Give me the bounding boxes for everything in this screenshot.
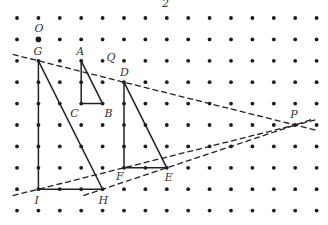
grid-dot: [101, 59, 105, 63]
grid-dot: [272, 209, 276, 213]
grid-dot: [15, 145, 19, 149]
grid-dot: [186, 166, 190, 170]
label-E: E: [164, 171, 173, 184]
grid-dot: [101, 38, 105, 42]
grid-dot: [315, 209, 319, 213]
grid-dot: [165, 80, 169, 84]
label-Q: Q: [107, 51, 116, 64]
grid-dot: [58, 59, 62, 63]
grid-dot: [186, 59, 190, 63]
title-fragment: 2: [161, 0, 169, 10]
grid-dot: [293, 209, 297, 213]
grid-dot: [293, 102, 297, 106]
grid-dot: [79, 209, 83, 213]
grid-dot: [251, 80, 255, 84]
grid-dot: [208, 123, 212, 127]
grid-dot: [229, 16, 233, 20]
grid-dot: [315, 38, 319, 42]
triangle-GHI: [38, 61, 102, 189]
grid-dot: [101, 145, 105, 149]
grid-dot: [15, 59, 19, 63]
grid-dot: [101, 166, 105, 170]
grid-dot: [208, 166, 212, 170]
point-O-dot: [36, 37, 42, 43]
grid-dot: [272, 123, 276, 127]
grid-dot: [15, 38, 19, 42]
grid-dot: [186, 16, 190, 20]
grid-dot: [165, 209, 169, 213]
grid-dot: [79, 16, 83, 20]
label-A: A: [75, 45, 84, 58]
grid-dot: [272, 102, 276, 106]
grid-dot: [229, 102, 233, 106]
grid-dot: [272, 80, 276, 84]
grid-dot: [101, 123, 105, 127]
grid-dot: [58, 16, 62, 20]
grid-dot: [186, 145, 190, 149]
grid-dot: [315, 145, 319, 149]
grid-dot: [144, 187, 148, 191]
line-GDP: [13, 54, 319, 130]
grid-dot: [293, 38, 297, 42]
grid-dot: [186, 80, 190, 84]
grid-dot: [101, 209, 105, 213]
grid-dot: [58, 166, 62, 170]
grid-dot: [186, 38, 190, 42]
grid-dot: [229, 80, 233, 84]
grid-dot: [186, 209, 190, 213]
grid-dot: [251, 38, 255, 42]
grid-dot: [251, 166, 255, 170]
grid-dot: [165, 145, 169, 149]
grid-dot: [101, 16, 105, 20]
label-G: G: [33, 45, 42, 58]
grid-dot: [165, 123, 169, 127]
label-H: H: [98, 194, 109, 207]
grid-dot: [15, 16, 19, 20]
grid-dot: [251, 145, 255, 149]
grid-dot: [229, 123, 233, 127]
grid-dot: [101, 80, 105, 84]
grid-dot: [293, 16, 297, 20]
line-IFP: [13, 119, 319, 195]
grid-dot: [293, 187, 297, 191]
grid-dot: [165, 16, 169, 20]
grid-dot: [165, 102, 169, 106]
grid-dot: [122, 38, 126, 42]
grid-dot: [315, 59, 319, 63]
grid-dot: [58, 145, 62, 149]
triangle-DEF: [124, 82, 167, 168]
grid-dot: [229, 59, 233, 63]
grid-dot: [144, 38, 148, 42]
grid-dot: [122, 16, 126, 20]
grid-dot: [58, 209, 62, 213]
grid-dot: [186, 123, 190, 127]
grid-dot: [208, 38, 212, 42]
grid-dot: [122, 209, 126, 213]
grid-dot: [293, 59, 297, 63]
grid-dot: [229, 166, 233, 170]
grid-dot: [37, 16, 41, 20]
grid-dot: [293, 80, 297, 84]
grid-dot: [315, 123, 319, 127]
grid-dot: [272, 16, 276, 20]
grid-dot: [15, 187, 19, 191]
grid-dot: [144, 59, 148, 63]
grid-dot: [251, 187, 255, 191]
line-HEP: [83, 119, 312, 195]
grid-dot: [293, 145, 297, 149]
grid-dot: [37, 209, 41, 213]
grid-dot: [251, 16, 255, 20]
grid-dot: [315, 187, 319, 191]
grid-dot: [79, 38, 83, 42]
grid-dot: [15, 209, 19, 213]
grid-dot: [272, 145, 276, 149]
grid-dot: [122, 59, 126, 63]
grid-dot: [251, 209, 255, 213]
label-P: P: [289, 108, 298, 121]
triangle-ABC: [81, 61, 102, 104]
grid-dot: [208, 59, 212, 63]
label-D: D: [119, 66, 129, 79]
grid-dot: [315, 166, 319, 170]
grid-dot: [229, 209, 233, 213]
grid-dot: [15, 102, 19, 106]
